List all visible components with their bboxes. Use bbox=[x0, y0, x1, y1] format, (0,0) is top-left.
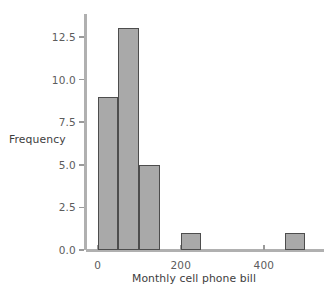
y-tick-label-wrap: 5.0 bbox=[30, 159, 76, 171]
y-tick-label-wrap: 10.0 bbox=[30, 74, 76, 86]
y-tick-label: 2.5 bbox=[36, 201, 76, 213]
y-tick-label: 12.5 bbox=[36, 31, 76, 43]
y-tick-mark bbox=[79, 121, 84, 123]
y-tick-label: 0.0 bbox=[36, 244, 76, 256]
x-tick-label: 200 bbox=[170, 259, 191, 271]
x-tick-label: 400 bbox=[254, 259, 275, 271]
y-tick-label: 5.0 bbox=[36, 159, 76, 171]
histogram-figure: Frequency 0.02.55.07.510.012.5 0200400 M… bbox=[0, 0, 332, 297]
y-tick-mark bbox=[79, 79, 84, 81]
histogram-bar bbox=[98, 97, 119, 250]
x-axis-title: Monthly cell phone bill bbox=[0, 272, 332, 285]
y-tick-mark bbox=[79, 249, 84, 251]
y-tick-mark bbox=[79, 36, 84, 38]
y-axis-title: Frequency bbox=[9, 133, 66, 146]
y-tick-mark bbox=[79, 207, 84, 209]
y-tick-label-wrap: 12.5 bbox=[30, 31, 76, 43]
y-tick-label-wrap: 2.5 bbox=[30, 201, 76, 213]
histogram-bar bbox=[285, 233, 306, 250]
histogram-bar bbox=[118, 28, 139, 250]
y-tick-label-wrap: 0.0 bbox=[30, 244, 76, 256]
x-tick-label-wrap: 200 bbox=[161, 254, 201, 273]
x-tick-label-wrap: 400 bbox=[244, 254, 284, 273]
y-tick-mark bbox=[79, 164, 84, 166]
y-tick-label: 7.5 bbox=[36, 116, 76, 128]
y-tick-label-wrap: 7.5 bbox=[30, 116, 76, 128]
histogram-bar bbox=[139, 165, 160, 250]
plot-area bbox=[86, 14, 322, 250]
x-tick-label-wrap: 0 bbox=[78, 254, 118, 273]
histogram-bar bbox=[181, 233, 202, 250]
y-tick-label: 10.0 bbox=[36, 74, 76, 86]
x-tick-label: 0 bbox=[94, 259, 101, 271]
